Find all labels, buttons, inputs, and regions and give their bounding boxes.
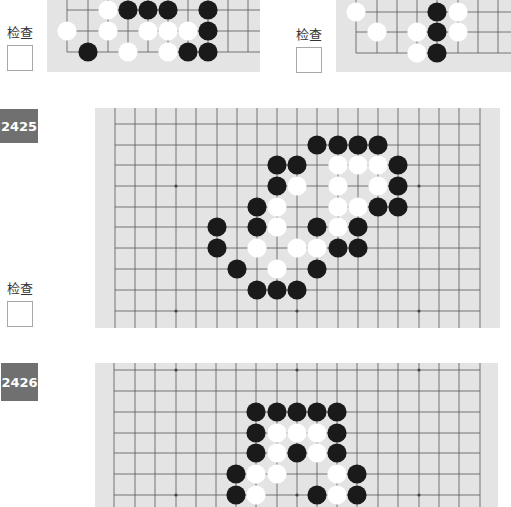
black-stone <box>348 217 367 236</box>
black-stone <box>327 402 346 421</box>
black-stone <box>267 402 286 421</box>
go-board <box>336 0 511 72</box>
white-stone <box>267 217 286 236</box>
check-checkbox[interactable] <box>7 301 33 327</box>
black-stone <box>347 464 366 483</box>
white-stone <box>287 423 306 442</box>
problem-number-badge: 2425 <box>0 109 38 143</box>
black-stone <box>388 155 407 174</box>
white-stone <box>328 155 347 174</box>
black-stone <box>226 485 245 504</box>
black-stone <box>348 135 367 154</box>
black-stone <box>307 485 326 504</box>
check-checkbox[interactable] <box>296 47 322 73</box>
black-stone <box>287 443 306 462</box>
black-stone <box>267 280 286 299</box>
white-stone <box>98 0 117 19</box>
black-stone <box>178 42 197 61</box>
white-stone <box>267 259 286 278</box>
black-stone <box>327 423 346 442</box>
white-stone <box>327 464 346 483</box>
black-stone <box>247 280 266 299</box>
black-stone <box>247 197 266 216</box>
black-stone <box>388 176 407 195</box>
white-stone <box>346 2 365 21</box>
black-stone <box>207 217 226 236</box>
go-board <box>95 108 500 328</box>
white-stone <box>247 238 266 257</box>
star-point <box>174 493 177 496</box>
black-stone <box>158 0 177 19</box>
star-point <box>295 309 298 312</box>
black-stone <box>347 485 366 504</box>
black-stone <box>348 238 367 257</box>
white-stone <box>307 423 326 442</box>
white-stone <box>267 197 286 216</box>
white-stone <box>57 21 76 40</box>
star-point <box>417 368 420 371</box>
black-stone <box>118 0 137 19</box>
check-label: 检查 <box>7 22 33 41</box>
black-stone <box>267 176 286 195</box>
star-point <box>295 493 298 496</box>
black-stone <box>427 22 446 41</box>
black-stone <box>227 259 246 278</box>
problem-number-badge: 2426 <box>1 363 38 401</box>
white-stone <box>246 464 265 483</box>
white-stone <box>348 155 367 174</box>
white-stone <box>287 238 306 257</box>
white-stone <box>98 21 117 40</box>
white-stone <box>448 2 467 21</box>
black-stone <box>307 135 326 154</box>
black-stone <box>427 43 446 62</box>
white-stone <box>407 22 426 41</box>
star-point <box>174 184 177 187</box>
white-stone <box>158 42 177 61</box>
black-stone <box>368 197 387 216</box>
black-stone <box>287 402 306 421</box>
black-stone <box>246 423 265 442</box>
black-stone <box>307 402 326 421</box>
white-stone <box>327 485 346 504</box>
check-label: 检查 <box>296 24 322 43</box>
white-stone <box>178 21 197 40</box>
black-stone <box>328 238 347 257</box>
white-stone <box>367 22 386 41</box>
black-stone <box>138 0 157 19</box>
go-board <box>47 0 260 72</box>
star-point <box>174 368 177 371</box>
black-stone <box>287 280 306 299</box>
black-stone <box>427 2 446 21</box>
white-stone <box>328 197 347 216</box>
black-stone <box>78 42 97 61</box>
black-stone <box>267 155 286 174</box>
black-stone <box>198 21 217 40</box>
white-stone <box>118 42 137 61</box>
white-stone <box>368 176 387 195</box>
white-stone <box>328 217 347 236</box>
star-point <box>417 493 420 496</box>
white-stone <box>328 176 347 195</box>
black-stone <box>328 135 347 154</box>
white-stone <box>448 22 467 41</box>
black-stone <box>246 443 265 462</box>
black-stone <box>287 155 306 174</box>
black-stone <box>327 443 346 462</box>
black-stone <box>247 217 266 236</box>
black-stone <box>198 0 217 19</box>
black-stone <box>388 197 407 216</box>
star-point <box>417 184 420 187</box>
black-stone <box>246 402 265 421</box>
check-checkbox[interactable] <box>7 45 33 71</box>
white-stone <box>246 485 265 504</box>
black-stone <box>198 42 217 61</box>
white-stone <box>158 21 177 40</box>
white-stone <box>138 21 157 40</box>
white-stone <box>307 443 326 462</box>
star-point <box>417 309 420 312</box>
white-stone <box>368 155 387 174</box>
check-label: 检查 <box>7 278 33 297</box>
black-stone <box>307 259 326 278</box>
go-board <box>95 363 498 507</box>
white-stone <box>307 238 326 257</box>
